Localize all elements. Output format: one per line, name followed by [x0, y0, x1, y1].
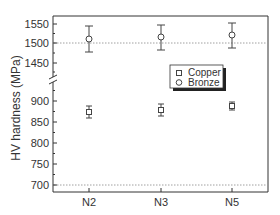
- y-tick-800: 800: [31, 137, 49, 149]
- legend: Copper Bronze: [170, 65, 226, 91]
- data-point-copper-n5: [229, 102, 235, 110]
- legend-circle-icon: [176, 80, 182, 86]
- x-tick-n2: N2: [82, 196, 96, 208]
- y-ticks: [53, 24, 57, 185]
- data-point-copper-n2: [86, 106, 92, 118]
- hardness-chart: 1550 1500 1450 900 850 800 750 700 HV ha…: [0, 0, 280, 215]
- series-bronze: [85, 23, 236, 52]
- y-tick-700: 700: [31, 179, 49, 191]
- x-ticks: [89, 188, 232, 192]
- y-tick-750: 750: [31, 158, 49, 170]
- y-tick-1450: 1450: [25, 57, 49, 69]
- data-point-bronze-n2: [85, 26, 93, 52]
- y-tick-900: 900: [31, 95, 49, 107]
- legend-bronze: Bronze: [188, 77, 220, 88]
- data-point-copper-n3: [158, 104, 164, 116]
- y-tick-labels: 1550 1500 1450 900 850 800 750 700: [25, 18, 49, 191]
- x-tick-n5: N5: [225, 196, 239, 208]
- y-axis-title: HV hardness (MPa): [9, 55, 23, 160]
- y-tick-1550: 1550: [25, 18, 49, 30]
- y-tick-850: 850: [31, 116, 49, 128]
- data-point-bronze-n5: [228, 23, 236, 48]
- legend-square-icon: [177, 71, 182, 76]
- data-point-bronze-n3: [157, 25, 165, 50]
- series-copper: [86, 102, 235, 118]
- x-tick-labels: N2 N3 N5: [82, 196, 239, 208]
- x-tick-n3: N3: [154, 196, 168, 208]
- y-tick-1500: 1500: [25, 37, 49, 49]
